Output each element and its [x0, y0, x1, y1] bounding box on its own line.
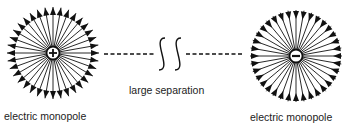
diagram-canvas: [0, 0, 350, 126]
positive-charge-icon: [47, 47, 60, 60]
break-symbol-icon: [159, 38, 181, 70]
right-monopole-label: electric monopole: [250, 111, 332, 123]
left-monopole-label: electric monopole: [4, 110, 86, 122]
separation-label: large separation: [129, 84, 204, 96]
negative-charge-icon: [290, 50, 303, 63]
